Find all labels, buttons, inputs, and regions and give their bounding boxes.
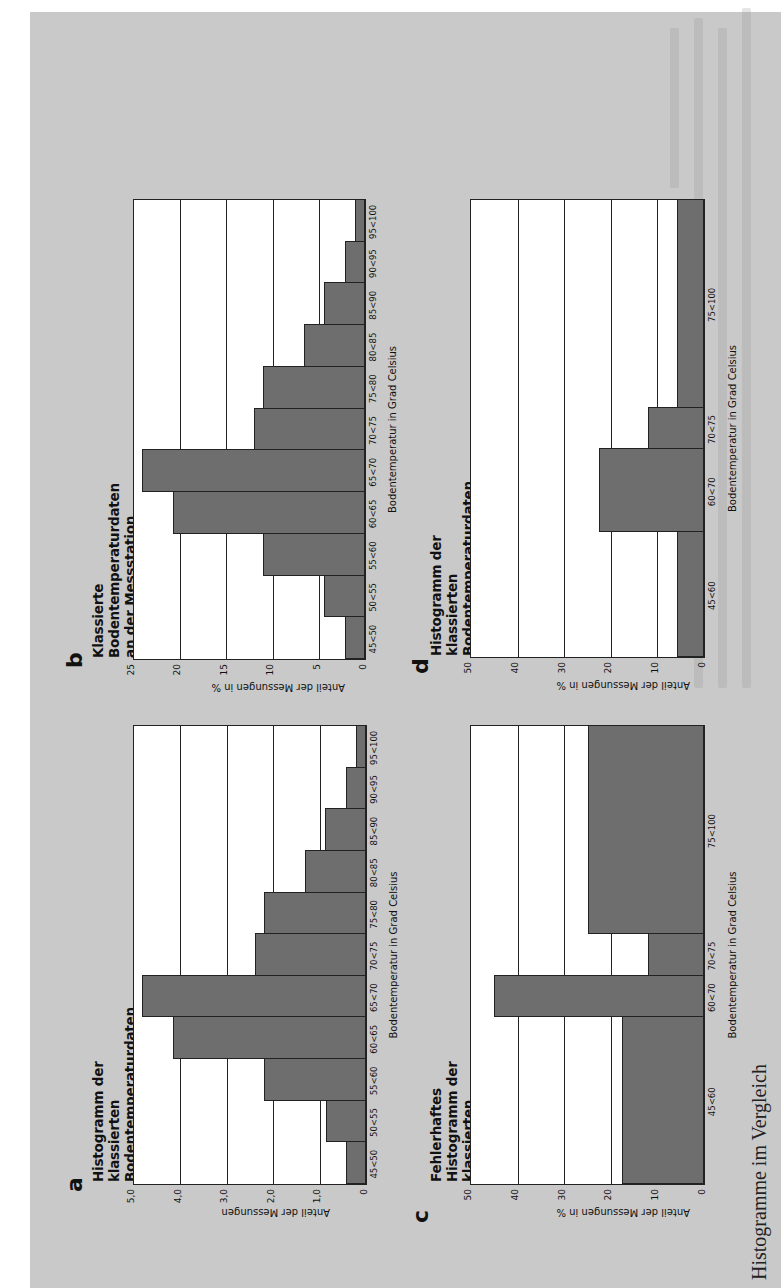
x-tick-label: 85<90 [368,284,378,326]
y-tick-label: 30 [557,662,567,692]
rotated-figure-page: a Histogramm der klassierten Bodentemper… [0,0,781,1288]
x-tick-label: 60<70 [707,977,717,1019]
gridline [227,726,228,1184]
x-axis-label: Bodentemperatur in Grad Celsius [727,199,738,658]
histogram-bar [355,199,365,242]
x-tick-label: 85<90 [369,810,379,852]
gridline [611,200,612,657]
histogram-bar [677,199,704,408]
histogram-bar [173,491,365,534]
histogram-bar [324,575,365,618]
x-tick-label: 60<65 [368,493,378,535]
x-tick-label: 80<85 [369,852,379,894]
histogram-bar [648,933,704,976]
histogram-bar [325,808,366,851]
y-tick-label: 4,0 [173,1189,183,1219]
gridline [226,200,227,659]
x-tick-label: 45<50 [368,618,378,660]
y-tick-label: 5 [312,664,322,694]
histogram-plot [470,725,705,1185]
x-axis-label: Bodentemperatur in Grad Celsius [387,199,398,660]
histogram-bar [255,933,366,976]
x-axis-label: Bodentemperatur in Grad Celsius [727,725,738,1185]
y-axis-label: Anteil der Messungen in % [557,1207,690,1218]
gridline [518,726,519,1184]
y-tick-label: 0 [697,662,707,692]
histogram-plot [133,199,366,660]
histogram-bar [346,767,366,810]
x-tick-label: 75<100 [707,727,717,935]
y-tick-label: 20 [603,662,613,692]
y-tick-label: 5,0 [126,1189,136,1219]
histogram-bar [254,408,365,451]
panel-letter: d [408,658,433,674]
histogram-bar [142,449,365,492]
histogram-bar [648,407,704,450]
figure-caption: Histogramme im Vergleich [748,1064,771,1280]
y-tick-label: 40 [510,662,520,692]
y-tick-label: 40 [510,1189,520,1219]
x-tick-label: 50<55 [368,577,378,619]
x-tick-label: 45<60 [707,533,717,658]
histogram-bar [173,1016,366,1059]
y-tick-label: 25 [126,664,136,694]
panel-letter: b [62,652,87,668]
y-tick-label: 20 [172,664,182,694]
bleed-through-text [718,28,727,688]
gridline [564,200,565,657]
bleed-through-text [742,8,751,688]
x-tick-label: 60<70 [707,450,717,533]
histogram-bar [599,448,704,532]
histogram-plot [133,725,367,1185]
x-tick-label: 65<70 [369,977,379,1019]
y-tick-label: 30 [557,1189,567,1219]
y-axis-label: Anteil der Messungen in % [212,682,345,693]
x-tick-label: 70<75 [707,409,717,451]
histogram-bar [304,324,365,367]
gridline [564,726,565,1184]
panel-letter: a [62,1177,87,1192]
panel-letter: c [408,1210,433,1223]
y-tick-label: 2,0 [266,1189,276,1219]
gridline [518,200,519,657]
x-tick-label: 70<75 [368,410,378,452]
gridline [180,726,181,1184]
histogram-bar [345,241,365,284]
y-tick-label: 10 [265,664,275,694]
y-tick-label: 0 [359,1189,369,1219]
x-tick-label: 95<100 [368,201,378,243]
y-tick-label: 50 [463,662,473,692]
histogram-bar [346,1141,366,1184]
x-tick-label: 70<75 [707,935,717,977]
histogram-plot [470,199,705,658]
y-tick-label: 50 [463,1189,473,1219]
x-tick-label: 90<95 [368,243,378,285]
histogram-bar [264,892,366,935]
y-tick-label: 10 [650,662,660,692]
x-axis-label: Bodentemperatur in Grad Celsius [388,725,399,1185]
x-tick-label: 95<100 [369,727,379,769]
histogram-bar [677,531,704,657]
gridline [180,200,181,659]
x-tick-label: 55<60 [369,1060,379,1102]
x-tick-label: 60<65 [369,1018,379,1060]
y-tick-label: 0 [697,1189,707,1219]
histogram-bar [263,366,365,409]
x-tick-label: 45<50 [369,1143,379,1185]
x-tick-label: 75<80 [368,368,378,410]
y-tick-label: 0 [358,664,368,694]
histogram-bar [494,975,704,1018]
histogram-bar [345,616,365,659]
x-tick-label: 65<70 [368,451,378,493]
x-tick-label: 75<80 [369,894,379,936]
histogram-bar [588,725,705,934]
histogram-bar [305,850,366,893]
histogram-bar [622,1016,704,1184]
y-tick-label: 15 [219,664,229,694]
bleed-through-text [670,28,679,188]
y-tick-label: 1,0 [312,1189,322,1219]
x-tick-label: 75<100 [707,201,717,409]
x-tick-label: 90<95 [369,769,379,811]
y-tick-label: 10 [650,1189,660,1219]
x-tick-label: 70<75 [369,935,379,977]
